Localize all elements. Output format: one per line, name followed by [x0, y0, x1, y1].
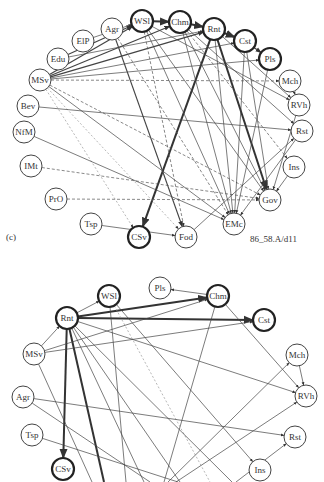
c-node-pro[interactable]: PrO	[45, 188, 67, 210]
node-label: EMc	[225, 219, 243, 229]
c-node-mch[interactable]: Mch	[279, 70, 301, 92]
node-label: Agr	[16, 392, 30, 402]
c-node-wsl[interactable]: WSl	[131, 10, 153, 32]
d-node-cst[interactable]: Cst	[253, 309, 275, 331]
c-edge-cst-pls	[254, 47, 261, 52]
c-edge-chm-gov	[185, 32, 265, 190]
c-node-msv[interactable]: MSv	[29, 69, 51, 91]
d-edge-rnt-cst	[78, 318, 253, 320]
d-edge-rnt-bot6	[72, 328, 144, 482]
c-node-agr[interactable]: Agr	[101, 18, 123, 40]
d-node-agr[interactable]: Agr	[12, 386, 34, 408]
node-label: ElP	[76, 36, 89, 46]
c-edge-msv-emc	[49, 87, 225, 218]
c-node-bev[interactable]: Bev	[17, 95, 39, 117]
node-label: NfM	[15, 127, 33, 137]
c-edge-ins-gov	[276, 176, 287, 191]
node-label: Pls	[264, 54, 276, 64]
node-label: CSv	[131, 232, 147, 242]
d-node-csv[interactable]: CSv	[52, 458, 74, 480]
node-label: Rst	[289, 432, 302, 442]
c-node-gov[interactable]: Gov	[259, 189, 281, 211]
d-edge-bot12-rvh	[176, 402, 297, 482]
node-label: PrO	[49, 194, 64, 204]
d-edge-mch-rvh	[299, 366, 303, 386]
node-label: MSv	[31, 75, 49, 85]
node-label: Gov	[262, 195, 278, 205]
c-node-fod[interactable]: Fod	[175, 226, 197, 248]
c-edge-chm-rnt	[191, 24, 203, 27]
d-node-wsl[interactable]: WSl	[98, 285, 120, 307]
node-label: Cst	[239, 36, 252, 46]
d-node-mch[interactable]: Mch	[286, 344, 308, 366]
c-node-chm[interactable]: Chm	[169, 11, 191, 33]
d-node-rvh[interactable]: RVh	[295, 385, 317, 407]
node-label: Rnt	[207, 24, 221, 34]
d-node-chm[interactable]: Chm	[207, 285, 229, 307]
panel-c-edges	[34, 21, 296, 235]
node-label: Tsp	[26, 430, 39, 440]
node-label: Fod	[179, 232, 194, 242]
d-node-rnt[interactable]: Rnt	[56, 307, 78, 329]
node-label: MSv	[25, 349, 43, 359]
node-label: Ins	[255, 465, 266, 475]
d-node-pls[interactable]: Pls	[149, 277, 171, 299]
node-label: Ins	[289, 162, 300, 172]
node-label: Agr	[105, 24, 119, 34]
panel-d-nodes: RntWSlPlsChmCstMSvAgrTspCSvMchRVhRstIns	[12, 277, 317, 481]
node-label: WSl	[101, 291, 118, 301]
panel-label: (c)	[6, 232, 16, 242]
network-diagram: WSlChmRntCstPlsAgrElPEduMSvBevNfMIMtPrOT…	[0, 0, 324, 482]
c-edge-pro-gov	[67, 199, 259, 200]
d-edge-rnt-bot1	[69, 329, 104, 482]
c-edge-rnt-cst	[224, 33, 234, 37]
node-label: Cst	[258, 315, 271, 325]
node-label: Mch	[282, 76, 299, 86]
d-edge-rnt-wsl	[77, 301, 100, 313]
c-edge-mch-rvh	[294, 91, 295, 94]
c-node-csv[interactable]: CSv	[128, 226, 150, 248]
c-edge-bev-rst	[39, 107, 291, 130]
d-edge-rnt-rvh	[77, 321, 295, 392]
d-edge-chm-pls	[171, 290, 207, 295]
c-edge-imt-gov	[42, 168, 259, 199]
node-label: Rst	[296, 126, 309, 136]
node-label: Bev	[21, 101, 36, 111]
c-edge-agr-fod	[116, 39, 183, 226]
d-node-tsp[interactable]: Tsp	[21, 424, 43, 446]
c-node-edu[interactable]: Edu	[47, 48, 69, 70]
node-label: Edu	[51, 54, 66, 64]
d-edge-agr-bot9	[32, 403, 150, 482]
d-edge-msv-rnt	[41, 326, 59, 346]
d-edge-agr-rst	[34, 399, 284, 436]
node-label: Chm	[209, 291, 227, 301]
c-edge-cst-gov	[247, 52, 269, 189]
c-edge-msv-fod	[47, 88, 178, 229]
node-label: RVh	[298, 391, 315, 401]
c-node-cst[interactable]: Cst	[234, 30, 256, 52]
d-edge-wsl-ins	[116, 304, 253, 461]
d-edge-wsl-bot4	[110, 307, 126, 482]
c-node-ins[interactable]: Ins	[283, 156, 305, 178]
node-label: Chm	[171, 17, 189, 27]
c-node-emc[interactable]: EMc	[223, 213, 245, 235]
c-node-rst[interactable]: Rst	[291, 120, 313, 142]
c-node-elp[interactable]: ElP	[72, 30, 94, 52]
c-node-tsp[interactable]: Tsp	[80, 213, 102, 235]
node-label: IMt	[24, 161, 38, 171]
c-node-rvh[interactable]: RVh	[288, 94, 310, 116]
d-node-ins[interactable]: Ins	[249, 459, 271, 481]
node-label: WSl	[134, 16, 151, 26]
node-label: CSv	[55, 464, 71, 474]
d-edge-rnt-csv	[63, 329, 66, 458]
d-node-msv[interactable]: MSv	[23, 343, 45, 365]
node-label: RVh	[291, 100, 308, 110]
d-node-rst[interactable]: Rst	[284, 426, 306, 448]
d-edge-rnt-bot7	[73, 327, 180, 482]
c-node-nfm[interactable]: NfM	[13, 121, 35, 143]
d-edge-bot11-mch	[168, 363, 289, 482]
d-edge-chm-bot3	[164, 307, 215, 482]
c-node-pls[interactable]: Pls	[259, 48, 281, 70]
c-node-rnt[interactable]: Rnt	[203, 18, 225, 40]
c-node-imt[interactable]: IMt	[20, 155, 42, 177]
